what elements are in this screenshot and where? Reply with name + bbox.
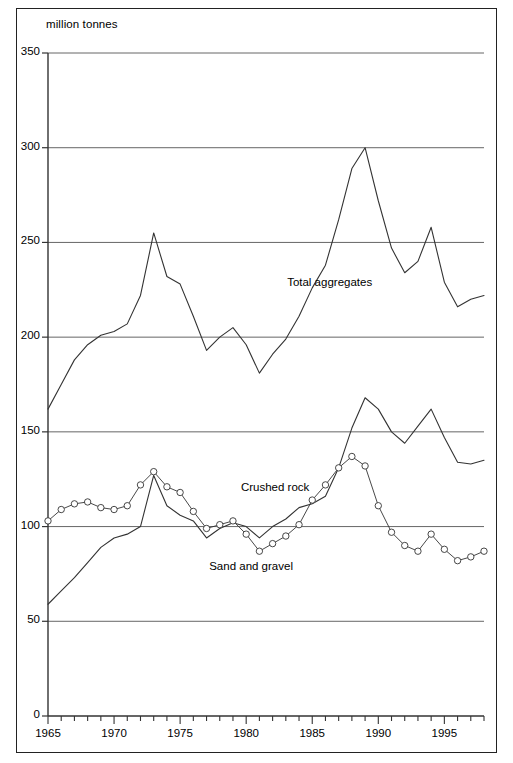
series-marker (375, 503, 381, 509)
series-label-crushed-rock: Crushed rock (241, 481, 309, 493)
y-axis-tick-label: 100 (6, 519, 40, 531)
series-marker (256, 548, 262, 554)
series-marker (468, 554, 474, 560)
series-marker (151, 468, 157, 474)
series-marker (454, 557, 460, 563)
series-marker (124, 503, 130, 509)
series-marker (217, 521, 223, 527)
series-marker (269, 540, 275, 546)
series-marker (177, 489, 183, 495)
series-marker (349, 453, 355, 459)
series-marker (322, 482, 328, 488)
series-lines-group (48, 148, 484, 605)
y-axis-tick-label: 350 (6, 45, 40, 57)
x-axis-tick-label: 1985 (289, 727, 335, 739)
series-marker (243, 531, 249, 537)
series-marker (58, 506, 64, 512)
series-marker (335, 465, 341, 471)
series-marker (309, 497, 315, 503)
series-marker (296, 521, 302, 527)
y-axis-ticks-group (42, 53, 48, 716)
y-axis-tick-label: 150 (6, 424, 40, 436)
series-marker (98, 504, 104, 510)
x-axis-tick-label: 1980 (223, 727, 269, 739)
series-marker (71, 501, 77, 507)
series-marker (190, 508, 196, 514)
x-axis-tick-label: 1970 (91, 727, 137, 739)
series-marker (415, 548, 421, 554)
y-axis-tick-label: 50 (6, 613, 40, 625)
x-axis-tick-label: 1990 (355, 727, 401, 739)
series-marker (164, 484, 170, 490)
series-marker (137, 482, 143, 488)
series-marker (481, 548, 487, 554)
series-line-total-aggregates (48, 148, 484, 409)
axes-group (48, 53, 484, 716)
series-marker (203, 525, 209, 531)
series-marker (84, 499, 90, 505)
series-marker (283, 533, 289, 539)
series-label-sand-and-gravel: Sand and gravel (209, 560, 293, 572)
y-axis-tick-label: 250 (6, 234, 40, 246)
y-axis-tick-label: 200 (6, 329, 40, 341)
x-axis-tick-label: 1975 (157, 727, 203, 739)
series-marker (402, 542, 408, 548)
series-marker (45, 518, 51, 524)
y-axis-tick-label: 300 (6, 140, 40, 152)
series-marker (230, 518, 236, 524)
series-marker (362, 463, 368, 469)
x-axis-tick-label: 1965 (25, 727, 71, 739)
figure-container: million tonnes 050100150200250300350 196… (0, 0, 513, 763)
series-label-total-aggregates: Total aggregates (287, 276, 372, 288)
line-chart (0, 0, 513, 763)
gridlines-group (48, 53, 484, 621)
series-marker (441, 546, 447, 552)
series-marker (111, 506, 117, 512)
series-marker (428, 531, 434, 537)
series-line-crushed-rock (48, 398, 484, 604)
x-axis-ticks-group (48, 716, 484, 724)
x-axis-tick-label: 1995 (421, 727, 467, 739)
y-axis-tick-label: 0 (6, 708, 40, 720)
series-marker (388, 529, 394, 535)
